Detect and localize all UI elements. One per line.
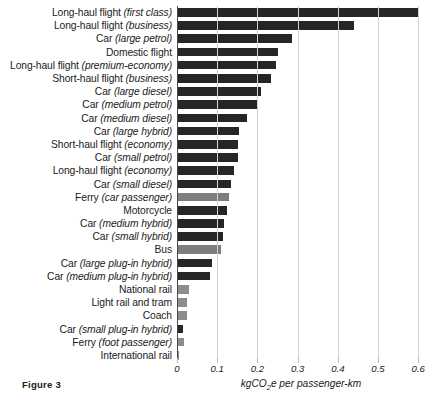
bar-row-label: Car (large diesel) (0, 86, 177, 97)
bar-row: Long-haul flight (first class) (0, 6, 447, 19)
bar-track (177, 164, 447, 177)
bar-track (177, 32, 447, 45)
bar-row-label: Domestic flight (0, 47, 177, 58)
bar-row-label: Coach (0, 310, 177, 321)
bar-track (177, 217, 447, 230)
bar-track (177, 349, 447, 362)
bar-track (177, 177, 447, 190)
bar-row-label: International rail (0, 350, 177, 361)
bar-track (177, 98, 447, 111)
bar-row-label: Bus (0, 244, 177, 255)
bar-row: Short-haul flight (business) (0, 72, 447, 85)
bar-row-label: Car (small plug-in hybrid) (0, 324, 177, 335)
bar (177, 338, 184, 347)
bar-row: Bus (0, 243, 447, 256)
bar (177, 232, 223, 241)
bar-row-label: Light rail and tram (0, 297, 177, 308)
bar (177, 61, 276, 70)
bar-track (177, 125, 447, 138)
bar (177, 245, 221, 254)
x-axis-label-tail: e per passenger-km (271, 378, 361, 389)
bar (177, 351, 179, 360)
bar-row: Car (large plug-in hybrid) (0, 257, 447, 270)
bar (177, 140, 238, 149)
bar-row: Long-haul flight (business) (0, 19, 447, 32)
bar-row: Light rail and tram (0, 296, 447, 309)
bar (177, 48, 278, 57)
bar (177, 285, 189, 294)
bar-track (177, 6, 447, 19)
bar-row-label: Short-haul flight (business) (0, 73, 177, 84)
bar-row-label: Ferry (car passenger) (0, 192, 177, 203)
bar-row-label: Car (small diesel) (0, 179, 177, 190)
bar-row: International rail (0, 349, 447, 362)
bar-row-label: Car (large plug-in hybrid) (0, 258, 177, 269)
bar (177, 325, 183, 334)
bar-row: Car (medium plug-in hybrid) (0, 270, 447, 283)
bar (177, 21, 354, 30)
bar-row: Car (medium diesel) (0, 112, 447, 125)
bar-track (177, 323, 447, 336)
bar-row-label: Long-haul flight (business) (0, 20, 177, 31)
bar-row: Ferry (foot passenger) (0, 336, 447, 349)
bar-row-label: Car (medium plug-in hybrid) (0, 271, 177, 282)
bar-track (177, 257, 447, 270)
bar-track (177, 59, 447, 72)
bar-track (177, 72, 447, 85)
bar-track (177, 243, 447, 256)
bar (177, 311, 187, 320)
bar-row: Car (large diesel) (0, 85, 447, 98)
bar-track (177, 283, 447, 296)
bar-track (177, 151, 447, 164)
bar (177, 114, 247, 123)
bar-row-label: Long-haul flight (first class) (0, 7, 177, 18)
axis-tick-label: 0 (174, 363, 179, 374)
bar-rows: Long-haul flight (first class)Long-haul … (0, 6, 447, 362)
bar-row-label: Long-haul flight (economy) (0, 165, 177, 176)
x-axis-label-main: kgCO (241, 378, 267, 389)
bar-row: Car (small hybrid) (0, 230, 447, 243)
x-axis-label: kgCO2e per passenger-km (177, 378, 425, 392)
bar-row: Car (large hybrid) (0, 125, 447, 138)
bar-row-label: Car (small hybrid) (0, 231, 177, 242)
emissions-bar-chart: Long-haul flight (first class)Long-haul … (0, 0, 447, 406)
figure-caption: Figure 3 (22, 379, 61, 390)
bar-row-label: Car (large hybrid) (0, 126, 177, 137)
bar-row-label: Car (large petrol) (0, 33, 177, 44)
bar (177, 127, 239, 136)
bar-row: Motorcycle (0, 204, 447, 217)
bar-row-label: Car (medium petrol) (0, 99, 177, 110)
bar-track (177, 191, 447, 204)
bar-track (177, 138, 447, 151)
bar-track (177, 46, 447, 59)
axis-tick-label: 0.2 (251, 363, 264, 374)
bar-row: Car (small diesel) (0, 177, 447, 190)
bar-row-label: Car (medium hybrid) (0, 218, 177, 229)
bar-row-label: Short-haul flight (economy) (0, 139, 177, 150)
axis-tick-label: 0.3 (291, 363, 304, 374)
bar (177, 272, 210, 281)
bar-row-label: National rail (0, 284, 177, 295)
bar (177, 100, 257, 109)
bar (177, 153, 238, 162)
bar-row: Domestic flight (0, 46, 447, 59)
axis-tick-label: 0.5 (371, 363, 384, 374)
bar-track (177, 112, 447, 125)
bar (177, 180, 231, 189)
bar-row: Car (large petrol) (0, 32, 447, 45)
bar-row: National rail (0, 283, 447, 296)
bar-row-label: Motorcycle (0, 205, 177, 216)
axis-tick-label: 0.4 (331, 363, 344, 374)
bar-track (177, 204, 447, 217)
bar-track (177, 336, 447, 349)
bar-row: Car (medium hybrid) (0, 217, 447, 230)
axis-tick-label: 0.6 (412, 363, 425, 374)
bar-row: Car (small petrol) (0, 151, 447, 164)
plot-area: Long-haul flight (first class)Long-haul … (0, 6, 447, 354)
bar-row: Car (medium petrol) (0, 98, 447, 111)
bar (177, 8, 418, 17)
bar (177, 298, 187, 307)
bar-row: Long-haul flight (premium-economy) (0, 59, 447, 72)
bar-track (177, 309, 447, 322)
bar-row-label: Ferry (foot passenger) (0, 337, 177, 348)
